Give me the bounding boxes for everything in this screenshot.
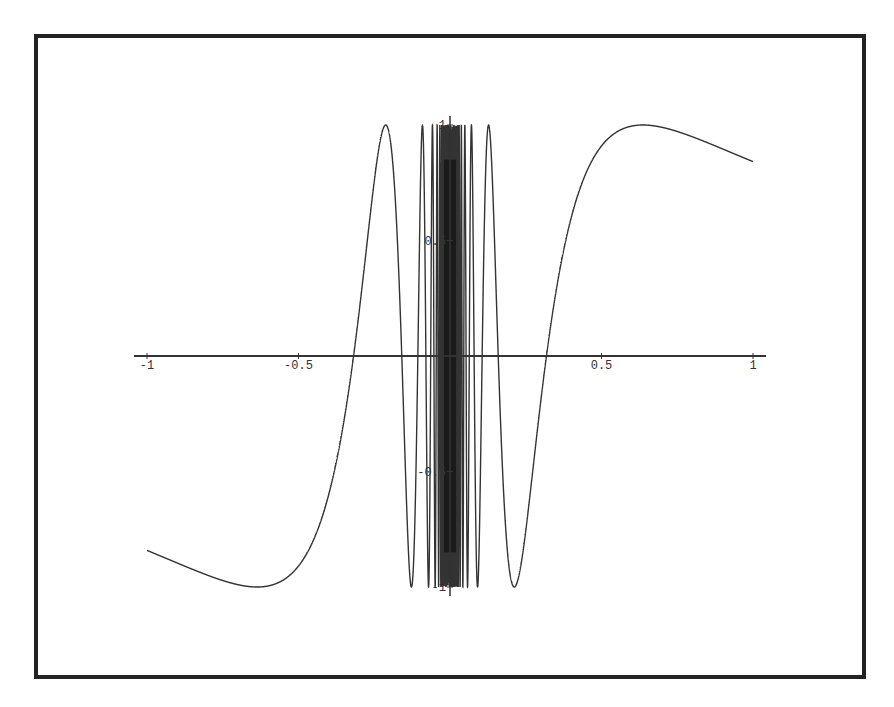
- y-tick-label: 1: [439, 119, 446, 133]
- x-tick-label: -0.5: [284, 359, 313, 373]
- y-tick-label: 0.5: [424, 235, 446, 249]
- x-tick-label: -1: [140, 359, 154, 373]
- y-tick-label: -0.5: [417, 466, 446, 480]
- x-tick-label: 0.5: [591, 359, 613, 373]
- x-tick-label: 1: [749, 359, 756, 373]
- plot-area: -1-0.50.51 10.5-0.5-1: [0, 0, 894, 707]
- y-tick-label: -1: [432, 581, 446, 595]
